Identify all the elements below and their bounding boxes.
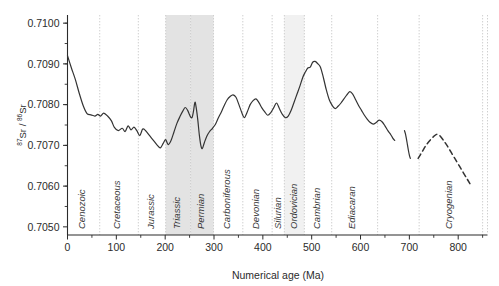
x-tick-label: 800 [449,241,467,253]
y-tick-label: 0.7070 [27,139,59,151]
y-tick-label: 0.7090 [27,58,59,70]
y-axis-end: Sr [17,104,28,114]
chart-background [0,0,499,286]
y-tick-label: 0.7060 [27,180,59,192]
x-tick-label: 0 [65,241,71,253]
x-tick-label: 200 [156,241,174,253]
x-tick-label: 700 [401,241,419,253]
period-label-ordovician: Ordovician [288,184,299,229]
sr-isotope-chart: CenozoicCretaceousJurassicTriassicPermia… [0,0,499,286]
period-label-ediacaran: Ediacaran [346,186,357,229]
period-label-cryogenian: Cryogenian [443,180,454,229]
period-label-silurian: Silurian [272,197,283,229]
period-label-jurassic: Jurassic [145,194,156,230]
x-tick-label: 100 [108,241,126,253]
y-tick-label: 0.7100 [27,17,59,29]
chart-canvas: CenozoicCretaceousJurassicTriassicPermia… [0,0,499,286]
x-tick-label: 400 [254,241,272,253]
y-axis-mid: Sr / [17,121,28,138]
period-label-carboniferous: Carboniferous [221,169,232,229]
period-label-triassic: Triassic [171,197,182,229]
x-tick-label: 600 [352,241,370,253]
period-label-devonian: Devonian [250,189,261,229]
y-tick-label: 0.7050 [27,221,59,233]
y-tick-label: 0.7080 [27,98,59,110]
x-axis-title: Numerical age (Ma) [232,269,324,281]
x-tick-label: 300 [205,241,223,253]
x-tick-label: 500 [303,241,321,253]
period-label-cenozoic: Cenozoic [76,189,87,229]
period-label-cambrian: Cambrian [311,188,322,229]
x-tick-label-layer: 0100200300400500600700800 [65,241,468,253]
period-label-cretaceous: Cretaceous [111,180,122,229]
period-label-permian: Permian [195,194,206,229]
